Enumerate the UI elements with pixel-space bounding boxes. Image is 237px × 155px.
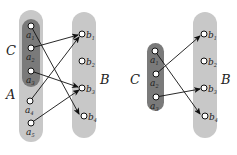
set-label-C-right: C: [130, 72, 140, 87]
node-b2: [79, 58, 85, 64]
set-label-C: C: [6, 43, 16, 58]
node-a3: [28, 68, 34, 74]
node-a5: [28, 120, 34, 126]
set-label-B-right: B: [220, 72, 231, 87]
node-b3: [201, 85, 207, 91]
set-label-B: B: [99, 72, 110, 87]
node-a1: [28, 23, 34, 29]
set-label-A: A: [5, 87, 15, 102]
node-b1: [79, 31, 85, 37]
node-a4: [27, 98, 33, 104]
node-b1: [201, 31, 207, 37]
node-a3: [153, 94, 159, 100]
node-a2: [28, 45, 34, 51]
left-diagram: a1 a2 a3 a4 a5 b1 b2 b3 b4 C A B: [5, 10, 110, 142]
node-b4: [202, 113, 208, 119]
node-b4: [81, 113, 87, 119]
node-b3: [79, 85, 85, 91]
bipartite-diagrams: a1 a2 a3 a4 a5 b1 b2 b3 b4 C A B: [0, 0, 237, 155]
node-a2: [153, 71, 159, 77]
right-diagram: a1 a2 a3 b1 b2 b3 b4 C B: [130, 12, 231, 138]
node-a1: [152, 48, 158, 54]
node-b2: [201, 58, 207, 64]
